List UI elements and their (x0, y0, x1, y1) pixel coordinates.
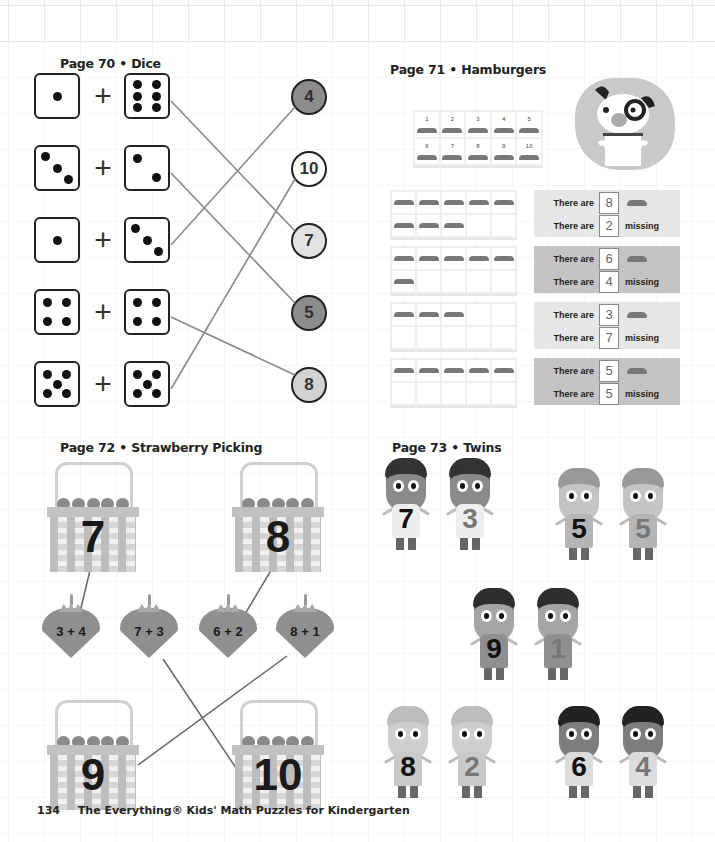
tray-slot (416, 191, 441, 214)
tray-slot (441, 270, 466, 293)
reference-hamburger-tray: 12345678910 (413, 110, 543, 166)
tray-slot: 9 (491, 138, 517, 165)
twin-kid[interactable]: 3 (445, 458, 495, 553)
missing-count-box[interactable]: 4 (599, 271, 619, 293)
twin-kid[interactable]: 1 (533, 588, 583, 683)
burger-icon (444, 223, 464, 228)
tray-slot (466, 326, 491, 349)
shirt-number: 4 (618, 751, 668, 783)
burger-icon (444, 312, 464, 317)
slot-number: 5 (528, 116, 531, 122)
burger-icon (468, 155, 488, 160)
strawberry[interactable]: 7 + 3 (120, 594, 178, 656)
basket-number: 9 (47, 750, 139, 800)
missing-count-box[interactable]: 5 (599, 383, 619, 405)
hamburgers-section-title: Page 71 • Hamburgers (390, 62, 546, 77)
tray-slot (441, 359, 466, 382)
burger-icon (394, 312, 414, 317)
die-pip (133, 389, 142, 398)
tray-slot (491, 303, 516, 326)
die-pip (152, 173, 161, 182)
strawberry-stem (304, 594, 307, 606)
left-die (34, 217, 80, 263)
burger-icon (394, 223, 414, 228)
basket-number: 10 (232, 750, 324, 800)
burger-icon (494, 256, 514, 261)
kid-eye (630, 728, 641, 740)
present-row: There are3 (534, 303, 680, 326)
burger-icon (419, 256, 439, 261)
dice-section-title: Page 70 • Dice (60, 56, 161, 71)
die-pip (53, 92, 62, 101)
kid-eye (566, 728, 577, 740)
strawberry-stem (70, 594, 73, 606)
twin-kid[interactable]: 5 (618, 468, 668, 563)
shirt-number: 8 (383, 751, 433, 783)
tray-slot (491, 191, 516, 214)
twin-kid[interactable]: 4 (618, 706, 668, 801)
die-pip (133, 317, 142, 326)
present-count-box[interactable]: 8 (599, 192, 619, 214)
die-pip (133, 298, 142, 307)
tray-slot (441, 247, 466, 270)
die-pip (62, 298, 71, 307)
missing-count-box[interactable]: 7 (599, 327, 619, 349)
missing-row: There are4missing (534, 270, 680, 293)
tray-slot (466, 191, 491, 214)
tray-slot (391, 214, 416, 237)
tray-slot: 2 (440, 111, 466, 138)
burger-icon (444, 256, 464, 261)
present-count-box[interactable]: 6 (599, 248, 619, 270)
tray-slot: 7 (440, 138, 466, 165)
twin-kid[interactable]: 5 (554, 468, 604, 563)
answer-circle[interactable]: 10 (291, 151, 327, 187)
slot-number: 10 (526, 143, 533, 149)
slot-number: 8 (476, 143, 479, 149)
present-count-box[interactable]: 3 (599, 304, 619, 326)
twin-kid[interactable]: 7 (381, 458, 431, 553)
burger-icon (494, 368, 514, 373)
plus-sign: + (88, 225, 118, 255)
burger-icon (417, 128, 437, 133)
burger-icon (627, 312, 647, 318)
answer-circle[interactable]: 8 (291, 367, 327, 403)
die-pip (41, 152, 50, 161)
burger-icon (469, 200, 489, 205)
tray-slot (391, 382, 416, 405)
missing-count-box[interactable]: 2 (599, 215, 619, 237)
left-die (34, 361, 80, 407)
twin-kid[interactable]: 9 (469, 588, 519, 683)
die-pip (43, 370, 52, 379)
burger-icon (444, 368, 464, 373)
tray-slot (391, 326, 416, 349)
strawberry-stem (227, 594, 230, 606)
shirt-number: 7 (381, 503, 431, 535)
kid-eye (459, 728, 470, 740)
count-panel: There are8There are2missing (534, 190, 680, 237)
die-pip (133, 103, 142, 112)
tray-slot (416, 303, 441, 326)
present-count-box[interactable]: 5 (599, 360, 619, 382)
twin-kid[interactable]: 2 (447, 706, 497, 801)
basket-number: 7 (47, 512, 139, 562)
tray-slot (466, 359, 491, 382)
twin-kid[interactable]: 6 (554, 706, 604, 801)
present-label: There are (534, 254, 594, 264)
kid-eye (581, 490, 592, 502)
right-die (124, 145, 170, 191)
page-number: 134 (37, 804, 60, 817)
strawberry[interactable]: 8 + 1 (276, 594, 334, 656)
answer-circle[interactable]: 5 (291, 295, 327, 331)
strawberry[interactable]: 3 + 4 (42, 594, 100, 656)
tray-slot (391, 270, 416, 293)
basket[interactable]: 8 (232, 462, 324, 572)
die-pip (62, 389, 71, 398)
strawberry[interactable]: 6 + 2 (199, 594, 257, 656)
answer-circle[interactable]: 4 (291, 79, 327, 115)
answer-circle[interactable]: 7 (291, 223, 327, 259)
basket[interactable]: 9 (47, 700, 139, 810)
left-die (34, 145, 80, 191)
basket[interactable]: 7 (47, 462, 139, 572)
basket[interactable]: 10 (232, 700, 324, 810)
twin-kid[interactable]: 8 (383, 706, 433, 801)
